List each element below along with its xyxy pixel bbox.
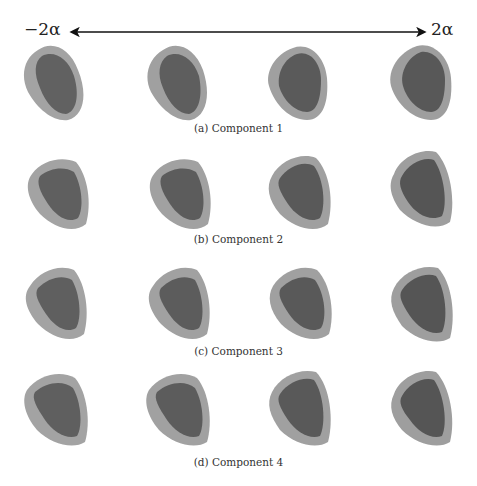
axis-right-label: 2α — [431, 19, 453, 39]
heart-mesh-icon — [144, 154, 222, 236]
component-caption: (a) Component 1 — [0, 122, 477, 134]
heart-mesh-icon — [21, 370, 99, 452]
heart-mesh-icon — [386, 148, 464, 230]
heart-mesh-icon — [143, 370, 221, 452]
double-arrow-icon — [0, 0, 477, 40]
heart-mesh-icon — [22, 154, 100, 236]
heart-mesh-icon — [141, 42, 219, 124]
heart-mesh-icon — [264, 152, 342, 234]
component-caption: (c) Component 3 — [0, 345, 477, 357]
component-caption: (d) Component 4 — [0, 456, 477, 468]
heart-mesh-icon — [388, 264, 466, 346]
heart-mesh-icon — [18, 42, 96, 124]
heart-mesh-icon — [263, 42, 341, 124]
heart-mesh-icon — [265, 264, 343, 346]
variation-axis: −2α 2α — [0, 0, 477, 40]
component-caption: (b) Component 2 — [0, 233, 477, 245]
heart-mesh-icon — [20, 264, 98, 346]
heart-mesh-icon — [143, 264, 221, 346]
heart-mesh-icon — [385, 42, 463, 124]
heart-mesh-icon — [266, 368, 344, 450]
heart-mesh-icon — [388, 368, 466, 450]
